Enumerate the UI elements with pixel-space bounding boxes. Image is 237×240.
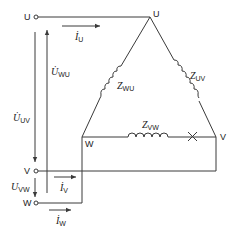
- u-vw-label: UVW: [11, 181, 30, 193]
- terminal-u: [34, 15, 38, 19]
- i-w-label: İW: [55, 215, 66, 227]
- delta-circuit-diagram: U V W U V W ZWU ZUV ZVW İU İV İW U̇WU U̇…: [0, 0, 237, 240]
- terminal-u-label: U: [24, 12, 31, 22]
- z-vw-label: ZVW: [142, 119, 159, 131]
- i-u-label: İU: [74, 31, 83, 43]
- vertex-v-label: V: [220, 132, 226, 142]
- u-wu-label: U̇WU: [51, 66, 70, 78]
- impedance-z-wu: [82, 17, 150, 137]
- impedance-z-uv: [150, 17, 216, 137]
- terminal-v-label: V: [24, 166, 30, 176]
- line-u: [34, 15, 150, 19]
- line-v: [34, 137, 216, 173]
- terminal-v: [34, 169, 38, 173]
- vertex-w-label: W: [85, 139, 94, 149]
- vertex-u-label: U: [153, 9, 160, 19]
- u-uv-label: U̇UV: [13, 112, 30, 124]
- i-v-label: İV: [59, 182, 68, 194]
- terminal-w: [34, 201, 38, 205]
- z-wu-label: ZWU: [117, 80, 134, 92]
- z-uv-label: ZUV: [190, 70, 206, 82]
- terminal-w-label: W: [23, 198, 32, 208]
